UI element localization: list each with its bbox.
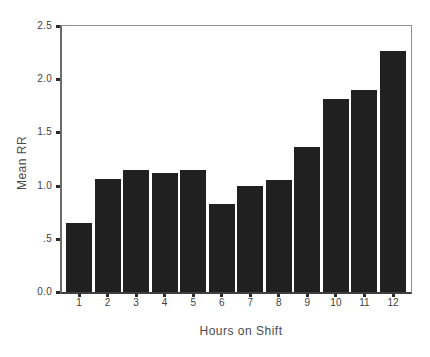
y-tick-mark (56, 131, 60, 134)
x-tick-label-5: 5 (181, 297, 205, 308)
y-tick-label-.5: .5 (0, 233, 52, 245)
bar-hour-5 (180, 170, 206, 292)
plot-area (60, 25, 412, 294)
y-tick-mark (56, 78, 60, 81)
bar-hour-4 (152, 173, 178, 292)
bars-container (66, 26, 406, 292)
x-tick-label-9: 9 (295, 297, 319, 308)
y-tick-label-1.0: 1.0 (0, 180, 52, 192)
x-tick-label-4: 4 (153, 297, 177, 308)
bar-hour-12 (380, 51, 406, 293)
chart-figure: Mean RR 2.52.01.51.0.50.0 12345678910111… (0, 0, 430, 357)
y-tick-mark (56, 25, 60, 28)
x-axis-title: Hours on Shift (199, 324, 282, 338)
bar-hour-1 (66, 223, 92, 292)
y-tick-mark (56, 238, 60, 241)
x-tick-label-12: 12 (381, 297, 405, 308)
bar-hour-6 (209, 204, 235, 292)
y-tick-label-1.5: 1.5 (0, 126, 52, 138)
x-tick-label-8: 8 (267, 297, 291, 308)
x-tick-label-2: 2 (96, 297, 120, 308)
y-tick-label-2.0: 2.0 (0, 73, 52, 85)
bar-hour-2 (95, 179, 121, 292)
bar-hour-7 (237, 186, 263, 292)
x-tick-label-6: 6 (210, 297, 234, 308)
bar-hour-10 (323, 99, 349, 292)
y-tick-mark (56, 185, 60, 188)
x-tick-label-7: 7 (238, 297, 262, 308)
x-tick-label-10: 10 (324, 297, 348, 308)
bar-hour-3 (123, 170, 149, 292)
x-tick-label-1: 1 (67, 297, 91, 308)
bar-hour-9 (294, 147, 320, 292)
y-tick-label-2.5: 2.5 (0, 20, 52, 32)
bar-hour-8 (266, 180, 292, 292)
x-tick-label-11: 11 (352, 297, 376, 308)
y-tick-mark (56, 291, 60, 294)
y-tick-label-0.0: 0.0 (0, 286, 52, 298)
bar-hour-11 (351, 90, 377, 292)
x-tick-label-3: 3 (124, 297, 148, 308)
